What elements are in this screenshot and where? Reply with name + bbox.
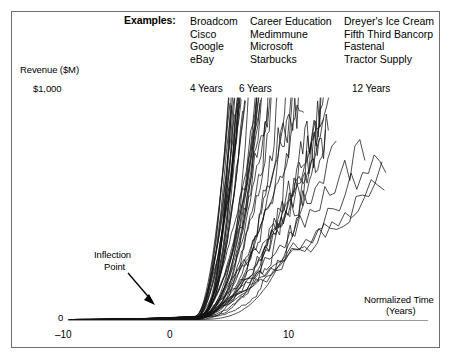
x-tick-label-0: 0	[167, 330, 172, 340]
y-tick-label-0: 0	[58, 313, 63, 323]
example-company: Career Education	[250, 15, 332, 28]
examples-column-3: Dreyer's Ice Cream Fifth Third Bancorp F…	[344, 15, 434, 65]
milestone-label-12-years: 12 Years	[352, 84, 390, 94]
example-company: Fifth Third Bancorp	[344, 28, 434, 41]
example-company: Tractor Supply	[344, 53, 434, 66]
y-tick-label-1000: $1,000	[33, 84, 61, 94]
x-tick-label-10: 10	[283, 330, 294, 340]
example-company: Microsoft	[250, 40, 332, 53]
x-axis-title-units: (Years)	[386, 306, 416, 316]
revenue-trajectory-lines	[68, 98, 385, 320]
x-tick-label-minus10: –10	[55, 330, 71, 340]
example-company: Starbucks	[250, 53, 332, 66]
example-company: Dreyer's Ice Cream	[344, 15, 434, 28]
inflection-arrow	[128, 273, 155, 305]
x-axis-title: Normalized Time	[364, 295, 434, 305]
examples-label: Examples:	[124, 15, 176, 26]
inflection-point-label-line2: Point	[104, 262, 125, 272]
inflection-point-label-line1: Inflection	[94, 250, 131, 260]
example-company: Fastenal	[344, 40, 434, 53]
example-company: Broadcom	[190, 15, 238, 28]
example-company: Cisco	[190, 28, 238, 41]
example-company: Google	[190, 40, 238, 53]
example-company: eBay	[190, 53, 238, 66]
milestone-label-4-years: 4 Years	[190, 84, 223, 94]
y-axis-title: Revenue ($M)	[20, 65, 79, 75]
examples-column-1: Broadcom Cisco Google eBay	[190, 15, 238, 65]
figure-root: Examples: Broadcom Cisco Google eBay Car…	[0, 0, 455, 359]
milestone-label-6-years: 6 Years	[239, 84, 272, 94]
example-company: Medimmune	[250, 28, 332, 41]
examples-column-2: Career Education Medimmune Microsoft Sta…	[250, 15, 332, 65]
